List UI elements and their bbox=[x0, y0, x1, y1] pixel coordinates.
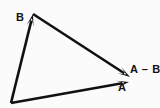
vector-a-minus-b-label: A – B bbox=[130, 64, 160, 75]
vector-b-label: B bbox=[16, 12, 24, 23]
vector-a-label: A bbox=[118, 82, 126, 93]
vector-diagram-figure: B A A – B bbox=[0, 0, 160, 108]
